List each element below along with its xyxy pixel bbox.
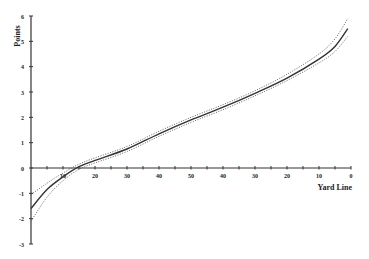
chart-canvas: -3-2-101234561020304050403020100 Points … xyxy=(0,0,369,259)
y-tick-label: 3 xyxy=(21,90,24,96)
axes: -3-2-101234561020304050403020100 xyxy=(19,14,353,248)
x-tick-label: 30 xyxy=(252,173,258,179)
y-tick-label: -3 xyxy=(19,242,24,248)
y-tick-label: 6 xyxy=(21,14,24,20)
y-tick-label: -1 xyxy=(19,191,24,197)
expected-points-chart: -3-2-101234561020304050403020100 Points … xyxy=(0,0,369,259)
series-group xyxy=(31,19,348,222)
x-tick-label: 30 xyxy=(124,173,130,179)
x-tick-label: 0 xyxy=(350,173,353,179)
confidence-band-line xyxy=(31,36,348,221)
x-tick-label: 40 xyxy=(220,173,226,179)
expected-points-line xyxy=(31,29,348,209)
y-axis-label: Points xyxy=(13,25,22,46)
x-tick-label: 10 xyxy=(316,173,322,179)
x-axis-label: Yard Line xyxy=(318,183,353,192)
y-tick-label: 4 xyxy=(21,64,24,70)
y-tick-label: 1 xyxy=(21,140,24,146)
y-tick-label: -2 xyxy=(19,216,24,222)
y-tick-label: 2 xyxy=(21,115,24,121)
x-tick-label: 40 xyxy=(156,173,162,179)
x-tick-label: 20 xyxy=(284,173,290,179)
x-tick-label: 50 xyxy=(188,173,194,179)
y-tick-label: 0 xyxy=(21,166,24,172)
x-tick-label: 20 xyxy=(92,173,98,179)
